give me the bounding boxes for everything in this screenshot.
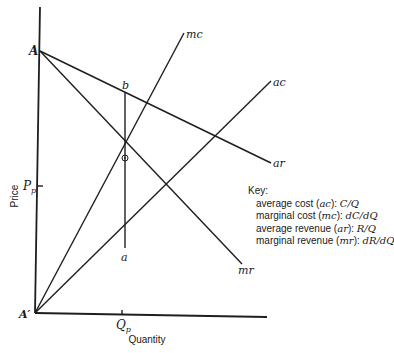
label-Pp: Pp	[22, 179, 36, 195]
label-mr: mr	[238, 264, 254, 277]
label-point-a: a	[121, 251, 128, 264]
mr-curve	[40, 51, 242, 264]
label-ar: ar	[273, 157, 286, 170]
ar-curve	[40, 51, 271, 163]
key-title: Key:	[248, 185, 394, 198]
label-A-prime: A′	[18, 308, 31, 321]
label-A: A	[28, 44, 38, 58]
quantity-axis	[35, 313, 267, 317]
x-axis-title: Quantity	[128, 334, 165, 345]
key-item-mc: marginal cost (mc): dC/dQ	[248, 210, 394, 223]
y-axis-title: Price	[9, 184, 20, 207]
ac-curve	[35, 81, 271, 313]
mc-curve	[35, 33, 184, 313]
label-mc: mc	[186, 28, 203, 41]
key-item-ac: average cost (ac): C/Q	[248, 198, 394, 211]
label-ac: ac	[273, 76, 286, 89]
legend-key: Key: average cost (ac): C/Q marginal cos…	[248, 185, 394, 248]
key-item-mr: marginal revenue (mr): dR/dQ	[248, 235, 394, 248]
key-item-ar: average revenue (ar): R/Q	[248, 223, 394, 236]
label-point-b: b	[122, 79, 129, 92]
optimum-price-marker-dot	[124, 157, 126, 159]
label-Qp: Qp	[116, 318, 131, 334]
